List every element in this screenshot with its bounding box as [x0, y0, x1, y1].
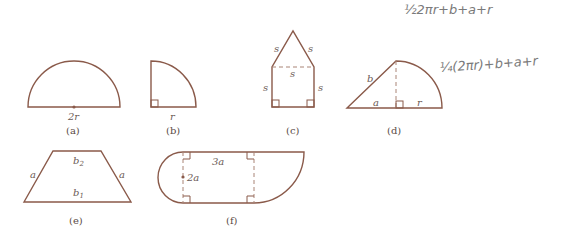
label-2a: 2a — [186, 172, 199, 183]
label-a: a — [373, 97, 379, 108]
geometry-figure-sheet: 2r (a) r (b) s s s s s (c) b a r (d) b2 … — [0, 0, 572, 243]
label-r-d: r — [417, 97, 423, 108]
figure-e-trapezoid: b2 b1 a a (e) — [24, 151, 131, 226]
caption-f: (f) — [226, 215, 238, 226]
label-right: s — [318, 82, 323, 93]
label-roof-left: s — [274, 43, 279, 54]
figure-b-quarter-circle: r (b) — [151, 61, 196, 136]
label-b2: b2 — [73, 155, 84, 168]
label-roof-right: s — [308, 43, 313, 54]
label-b1: b1 — [73, 187, 84, 200]
label-3a: 3a — [212, 156, 224, 167]
label-a-right: a — [119, 169, 125, 180]
caption-b: (b) — [166, 125, 180, 136]
label-r: r — [170, 111, 176, 122]
caption-a: (a) — [66, 125, 80, 136]
caption-d: (d) — [387, 125, 401, 136]
label-2r: 2r — [67, 111, 80, 122]
label-b: b — [367, 73, 373, 84]
label-left: s — [263, 82, 268, 93]
caption-c: (c) — [286, 125, 300, 136]
label-dashed: s — [290, 68, 295, 79]
figure-c-house: s s s s s (c) — [263, 31, 323, 136]
figure-d-triangle-quarter: b a r (d) — [347, 61, 442, 136]
handwritten-note-1: ½2πr+b+a+r — [404, 2, 494, 17]
label-a-left: a — [30, 169, 36, 180]
figure-a-semicircle: 2r (a) — [28, 61, 120, 136]
caption-e: (e) — [69, 215, 83, 226]
figure-f-composite: 3a 2a (f) — [158, 152, 304, 226]
handwritten-note-2: ¼(2πr)+b+a+r — [439, 53, 540, 75]
